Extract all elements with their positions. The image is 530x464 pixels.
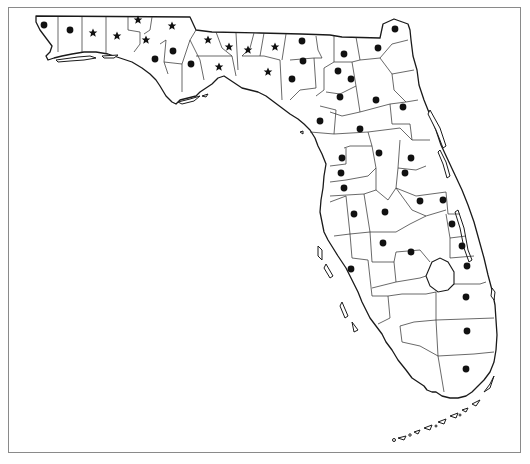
gulf-island bbox=[352, 322, 358, 332]
county-dot-marker[interactable] bbox=[463, 294, 470, 301]
county-dot-marker[interactable] bbox=[170, 48, 177, 55]
county-dot-marker[interactable] bbox=[392, 26, 399, 33]
county-dot-marker[interactable] bbox=[402, 170, 409, 177]
county-dot-marker[interactable] bbox=[341, 185, 348, 192]
panhandle-barrier-island bbox=[102, 55, 118, 58]
county-dot-marker[interactable] bbox=[449, 221, 456, 228]
florida-county-map bbox=[0, 0, 530, 464]
county-dot-marker[interactable] bbox=[348, 266, 355, 273]
county-dot-marker[interactable] bbox=[357, 126, 364, 133]
gulf-island bbox=[202, 94, 208, 97]
county-dot-marker[interactable] bbox=[463, 366, 470, 373]
county-dot-marker[interactable] bbox=[400, 104, 407, 111]
county-dot-marker[interactable] bbox=[440, 197, 447, 204]
county-dot-marker[interactable] bbox=[41, 22, 48, 29]
gulf-island bbox=[300, 131, 303, 134]
county-dot-marker[interactable] bbox=[408, 249, 415, 256]
county-dot-marker[interactable] bbox=[459, 243, 466, 250]
county-dot-marker[interactable] bbox=[373, 97, 380, 104]
county-dot-marker[interactable] bbox=[300, 58, 307, 65]
county-dot-marker[interactable] bbox=[348, 76, 355, 83]
county-dot-marker[interactable] bbox=[289, 76, 296, 83]
county-dot-marker[interactable] bbox=[338, 170, 345, 177]
county-dot-marker[interactable] bbox=[67, 27, 74, 34]
gulf-island bbox=[318, 246, 322, 260]
county-dot-marker[interactable] bbox=[299, 38, 306, 45]
county-dot-marker[interactable] bbox=[382, 209, 389, 216]
county-dot-marker[interactable] bbox=[341, 51, 348, 58]
county-dot-marker[interactable] bbox=[351, 211, 358, 218]
panhandle-barrier-island bbox=[56, 56, 96, 62]
county-dot-marker[interactable] bbox=[188, 61, 195, 68]
county-dot-marker[interactable] bbox=[335, 68, 342, 75]
county-dot-marker[interactable] bbox=[375, 45, 382, 52]
county-dot-marker[interactable] bbox=[464, 328, 471, 335]
gulf-island bbox=[324, 264, 333, 278]
county-dot-marker[interactable] bbox=[464, 263, 471, 270]
gulf-island bbox=[340, 302, 348, 318]
county-dot-marker[interactable] bbox=[339, 155, 346, 162]
county-dot-marker[interactable] bbox=[408, 155, 415, 162]
county-dot-marker[interactable] bbox=[152, 56, 159, 63]
county-dot-marker[interactable] bbox=[317, 118, 324, 125]
county-dot-marker[interactable] bbox=[417, 198, 424, 205]
county-dot-marker[interactable] bbox=[376, 150, 383, 157]
county-dot-marker[interactable] bbox=[337, 94, 344, 101]
county-dot-marker[interactable] bbox=[380, 240, 387, 247]
